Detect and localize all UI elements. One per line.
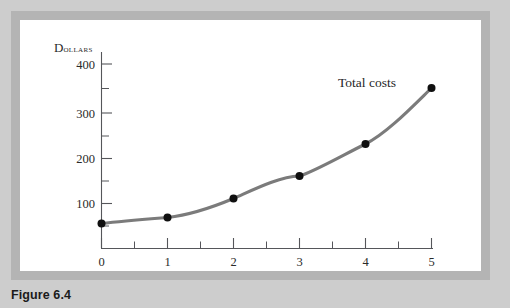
figure-container: 400 300 200 100 Dollars <box>0 0 510 308</box>
x-tick-label-0: 0 <box>98 255 104 269</box>
data-point-2 <box>230 195 238 203</box>
y-tick-label-200: 200 <box>76 152 95 166</box>
y-axis-title: Dollars <box>54 40 93 55</box>
line-chart: 400 300 200 100 Dollars <box>20 20 481 271</box>
x-tick-label-1: 1 <box>164 255 170 269</box>
x-tick-label-3: 3 <box>296 255 302 269</box>
data-point-5 <box>428 84 436 92</box>
data-point-3 <box>296 172 304 180</box>
x-tick-label-2: 2 <box>230 255 236 269</box>
y-axis-title-rest: ollars <box>63 43 92 54</box>
series-label-total-costs: Total costs <box>338 75 396 90</box>
data-point-0 <box>98 220 106 228</box>
figure-caption: Figure 6.4 <box>11 288 71 302</box>
total-costs-curve <box>102 88 432 224</box>
data-points-group <box>98 84 436 228</box>
data-point-4 <box>362 140 370 148</box>
data-point-1 <box>164 214 172 222</box>
y-tick-label-100: 100 <box>76 197 95 211</box>
y-tick-label-300: 300 <box>76 107 95 121</box>
x-tick-label-5: 5 <box>428 255 434 269</box>
y-axis-title-lead: D <box>54 40 63 55</box>
x-axis-group: 0 1 2 3 4 5 <box>98 238 434 269</box>
caption-band <box>0 283 510 308</box>
x-tick-label-4: 4 <box>362 255 369 269</box>
y-tick-label-400: 400 <box>76 58 95 72</box>
y-axis-group: 400 300 200 100 Dollars <box>54 40 112 249</box>
